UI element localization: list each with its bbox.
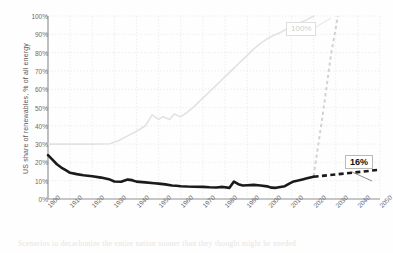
x-tick-1960: 1960 <box>179 194 194 209</box>
x-tick-1970: 1970 <box>201 194 216 209</box>
x-tick-2050: 2050 <box>378 194 393 209</box>
x-tick-1980: 1980 <box>223 194 238 209</box>
chart-screenshot: 100%90%80%70%60%50%40%30%20%10%0% US sha… <box>0 0 393 253</box>
x-tick-1990: 1990 <box>245 194 260 209</box>
x-tick-1900: 1900 <box>46 194 61 209</box>
background-bleed-text: Scenarios to decarbonize the entire nati… <box>18 239 378 248</box>
x-tick-1920: 1920 <box>90 194 105 209</box>
x-tick-1950: 1950 <box>157 194 172 209</box>
x-tick-2040: 2040 <box>356 194 371 209</box>
callout-100pct: 100% <box>286 22 316 36</box>
x-tick-2010: 2010 <box>289 194 304 209</box>
x-axis-tick-labels: 1900191019201930194019501960197019801990… <box>0 0 393 253</box>
x-tick-1930: 1930 <box>112 194 127 209</box>
x-tick-2020: 2020 <box>312 194 327 209</box>
callout-16pct: 16% <box>345 155 373 169</box>
x-tick-1940: 1940 <box>135 194 150 209</box>
x-tick-1910: 1910 <box>68 194 83 209</box>
x-tick-2030: 2030 <box>334 194 349 209</box>
x-tick-2000: 2000 <box>267 194 282 209</box>
